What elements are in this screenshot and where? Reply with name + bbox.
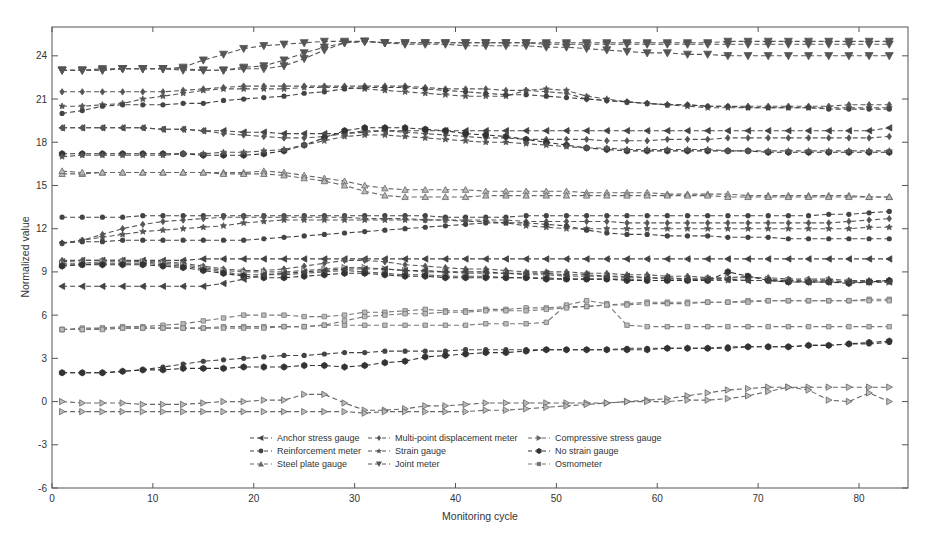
data-point-marker (524, 400, 530, 406)
x-tick-label: 50 (551, 493, 563, 504)
data-point-marker (745, 344, 751, 350)
data-point-marker (887, 133, 891, 139)
data-point-marker (866, 339, 872, 345)
legend-label: Steel plate gauge (277, 459, 347, 469)
data-point-marker (181, 322, 185, 326)
data-point-marker (423, 323, 427, 327)
data-point-marker (685, 345, 691, 351)
data-point-marker (60, 398, 66, 404)
data-point-marker (524, 322, 528, 326)
data-point-marker (402, 217, 408, 223)
data-point-marker (221, 316, 225, 320)
legend-item: Steel plate gauge (250, 459, 347, 469)
data-point-marker (665, 324, 669, 328)
data-point-marker (624, 232, 629, 237)
data-point-marker (362, 362, 368, 368)
data-point-marker (322, 408, 328, 414)
data-point-marker (705, 226, 711, 232)
data-point-marker (866, 107, 871, 112)
data-point-marker (564, 95, 569, 100)
data-point-marker (624, 347, 630, 353)
data-point-marker (745, 385, 751, 391)
data-point-marker (866, 256, 872, 262)
data-point-marker (786, 344, 792, 350)
data-point-marker (766, 105, 771, 110)
data-point-marker (867, 298, 871, 302)
data-point-marker (503, 139, 509, 145)
data-point-marker (786, 213, 791, 218)
data-point-marker (786, 324, 790, 328)
data-point-marker (483, 132, 489, 138)
data-point-marker (322, 362, 328, 368)
data-point-marker (80, 89, 84, 95)
data-point-marker (847, 218, 851, 224)
data-point-marker (342, 350, 347, 355)
data-point-marker (584, 213, 589, 218)
data-point-marker (523, 348, 529, 354)
data-point-marker (503, 256, 509, 262)
data-point-marker (423, 403, 429, 409)
data-point-marker (59, 215, 64, 220)
data-point-marker (221, 238, 226, 243)
data-point-marker (483, 220, 488, 225)
data-point-marker (281, 256, 287, 262)
legend-item: No strain gauge (528, 446, 619, 456)
data-point-marker (80, 370, 86, 376)
data-point-marker (705, 233, 710, 238)
data-point-marker (543, 86, 549, 92)
data-point-marker (624, 256, 630, 262)
data-point-marker (685, 233, 690, 238)
data-point-marker (887, 215, 891, 221)
data-point-marker (141, 221, 145, 227)
data-point-marker (786, 105, 791, 110)
data-point-marker (605, 138, 609, 144)
y-tick-label: 3 (41, 353, 47, 364)
data-point-marker (866, 224, 872, 230)
data-point-marker (201, 326, 205, 330)
legend-label: Compressive stress gauge (555, 433, 662, 443)
data-point-marker (281, 364, 287, 370)
data-point-marker (362, 188, 368, 194)
data-point-marker (543, 128, 549, 134)
data-point-marker (201, 238, 206, 243)
data-point-marker (79, 103, 85, 109)
data-point-marker (625, 303, 629, 307)
data-point-marker (786, 135, 790, 141)
legend-marker-icon (537, 462, 541, 466)
data-point-marker (624, 128, 630, 134)
data-point-marker (625, 138, 629, 144)
data-point-marker (584, 347, 590, 353)
data-point-marker (503, 400, 509, 406)
data-point-marker (281, 353, 286, 358)
data-point-marker (261, 218, 267, 224)
data-point-marker (220, 86, 226, 92)
data-point-marker (484, 309, 488, 313)
data-point-marker (725, 345, 731, 351)
data-point-marker (402, 256, 408, 262)
data-point-marker (402, 226, 407, 231)
data-point-marker (463, 310, 467, 314)
data-point-marker (98, 67, 106, 74)
x-tick-label: 70 (753, 493, 765, 504)
data-point-marker (806, 105, 811, 110)
data-point-marker (726, 324, 730, 328)
data-point-marker (604, 128, 610, 134)
data-point-marker (766, 213, 771, 218)
data-point-marker (120, 89, 124, 95)
data-point-marker (120, 408, 126, 414)
data-point-marker (300, 55, 308, 62)
data-point-marker (644, 256, 650, 262)
data-point-marker (624, 226, 630, 232)
data-point-marker (221, 326, 225, 330)
data-point-marker (281, 408, 287, 414)
data-point-marker (685, 226, 691, 232)
data-point-marker (302, 353, 307, 358)
data-point-marker (463, 89, 468, 94)
data-point-marker (403, 262, 407, 268)
data-point-marker (120, 238, 125, 243)
data-point-marker (322, 351, 327, 356)
data-point-marker (221, 365, 227, 371)
data-point-marker (544, 276, 550, 282)
x-tick-label: 10 (147, 493, 159, 504)
data-point-marker (543, 256, 549, 262)
